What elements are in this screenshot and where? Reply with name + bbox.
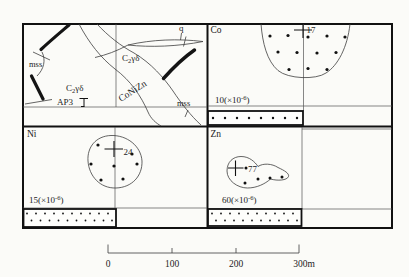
dike-lower-left <box>32 76 44 99</box>
orebody-band <box>24 209 117 227</box>
peak-value: 77 <box>248 164 258 174</box>
zn-panel: 77 Zn 60(×10-6) <box>208 127 392 226</box>
co-panel: 17 Co 10(×10-6) <box>208 23 392 125</box>
geology-panel: mss mss C2γδ C2γδ q AP3 CoNiZn <box>23 23 207 126</box>
figure-canvas: mss mss C2γδ C2γδ q AP3 CoNiZn 17 Co 10(… <box>0 0 409 277</box>
sample-cross <box>228 161 244 177</box>
scale-tick-100: 100 <box>165 259 180 269</box>
threshold-label: 60(×10-6) <box>222 194 257 206</box>
mss-label-lower: mss <box>177 98 190 108</box>
peak-value: 17 <box>307 25 317 35</box>
scale-tick-0: 0 <box>106 259 111 269</box>
panel-title: Ni <box>27 129 37 139</box>
orebody-label: CoNiZn <box>117 78 149 103</box>
scale-tick-300m: 300m <box>293 259 315 269</box>
anomaly-contour <box>261 24 350 78</box>
orebody-band <box>208 111 303 125</box>
rock-unit-label-2: C2γδ <box>122 53 139 64</box>
scale-tick-200: 200 <box>229 259 244 269</box>
ni-panel: 24 Ni 15(×10-6) <box>23 127 207 227</box>
threshold-label: 15(×10-6) <box>29 194 64 206</box>
geologic-contacts <box>37 24 201 126</box>
rock-unit-label-1: C2γδ <box>66 83 83 94</box>
dike-strike-tick <box>25 100 52 105</box>
outer-frame <box>23 24 392 228</box>
threshold-label: 10(×10-6) <box>215 94 250 106</box>
anomaly-contour <box>227 157 289 189</box>
dike-upper-left <box>41 25 69 50</box>
peak-value: 24 <box>124 147 134 157</box>
mss-label-upper: mss <box>29 59 42 69</box>
q-pointer-tick <box>181 33 182 40</box>
adit-symbol <box>80 99 89 107</box>
vein-tick <box>184 37 187 47</box>
quartz-label: q <box>179 23 184 33</box>
sample-cross <box>105 141 124 157</box>
dike-center <box>164 50 195 79</box>
panel-title: Co <box>211 25 222 35</box>
adit-label: AP3 <box>57 97 74 107</box>
scale-bar: 0 100 200 300m <box>106 245 316 270</box>
orebody-band <box>208 209 302 226</box>
panel-title: Zn <box>211 129 222 139</box>
mss-pointer-tick <box>185 110 188 117</box>
